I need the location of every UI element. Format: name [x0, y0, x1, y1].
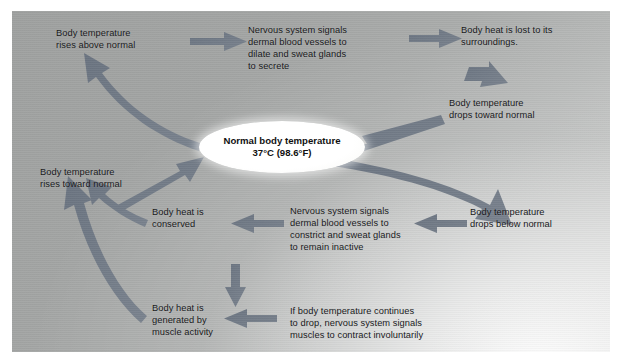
- node-temp-rises-toward-normal: Body temperature rises toward normal: [40, 166, 175, 190]
- arrow-dilate-to-heatlost: [409, 29, 462, 48]
- node-heat-lost-surroundings: Body heat is lost to its surroundings.: [461, 24, 610, 48]
- arrow-heatlost-to-dropstoward: [464, 61, 508, 87]
- arrow-rises-to-dilate: [190, 32, 247, 51]
- node-heat-generated-muscle: Body heat is generated by muscle activit…: [152, 302, 252, 338]
- node-temp-rises-above-normal: Body temperature rises above normal: [56, 27, 188, 51]
- node-nervous-dilate-sweat: Nervous system signals dermal blood vess…: [248, 24, 398, 72]
- node-temp-drops-below-normal: Body temperature drops below normal: [470, 206, 610, 230]
- node-nervous-constrict-inactive: Nervous system signals dermal blood vess…: [290, 205, 450, 253]
- node-heat-conserved: Body heat is conserved: [152, 206, 242, 230]
- arrow-center-to-risesabove: [84, 53, 200, 151]
- center-label-line1: Normal body temperature: [224, 135, 341, 147]
- arrow-constrict-to-continues: [225, 264, 246, 307]
- center-label-line2: 37°C (98.6°F): [253, 147, 312, 159]
- node-temp-drops-toward-normal: Body temperature drops toward normal: [449, 97, 599, 121]
- diagram-panel: Body temperature rises above normal Nerv…: [12, 11, 610, 352]
- center-node-normal-body-temperature: Normal body temperature 37°C (98.6°F): [199, 121, 365, 173]
- node-if-temp-continues-drop: If body temperature continues to drop, n…: [290, 305, 480, 341]
- homeostasis-diagram: Body temperature rises above normal Nerv…: [0, 0, 623, 363]
